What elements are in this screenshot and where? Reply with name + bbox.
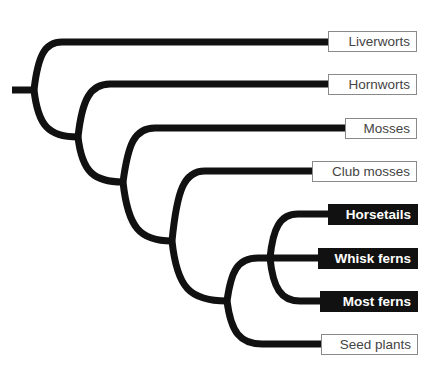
branch-node1-lower [34, 90, 78, 137]
taxon-label-whisk-ferns: Whisk ferns [318, 248, 418, 269]
branch-seed-plants [227, 301, 323, 344]
taxon-label-mosses: Mosses [345, 118, 417, 139]
taxon-label-seed-plants: Seed plants [321, 334, 418, 355]
taxon-label-hornworts: Hornworts [328, 74, 417, 95]
taxon-label-club-mosses: Club mosses [312, 161, 417, 182]
taxon-label-liverworts: Liverworts [328, 31, 417, 52]
branch-most-ferns [270, 258, 322, 301]
branch-node5-upper [227, 258, 270, 301]
branch-node4-lower [172, 241, 227, 301]
branch-node2-lower [78, 137, 123, 182]
taxon-label-horsetails: Horsetails [328, 204, 418, 225]
taxon-label-most-ferns: Most ferns [320, 291, 418, 312]
branch-club-mosses [172, 171, 314, 241]
branch-node3-lower [123, 182, 172, 241]
phylogenetic-tree [0, 0, 443, 378]
